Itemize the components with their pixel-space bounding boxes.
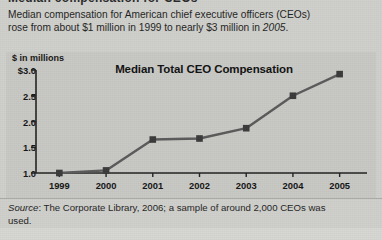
- x-tick-label-2000: 2000: [96, 180, 117, 191]
- intro-line-2-suffix: .: [286, 22, 289, 33]
- line-chart-plot: [6, 52, 376, 198]
- x-tick-label-2004: 2004: [282, 180, 303, 191]
- intro-line-1: Median compensation for American chief e…: [8, 9, 310, 20]
- source-text-line-2: used.: [8, 215, 31, 226]
- x-tick-label-2002: 2002: [189, 180, 210, 191]
- x-tick-label-2005: 2005: [329, 180, 350, 191]
- clipped-heading-text: Median compensation for CEOs: [8, 0, 198, 5]
- source-label: Source: [8, 202, 38, 213]
- intro-paragraph: Median compensation for American chief e…: [8, 8, 374, 34]
- chart-panel: $ in millions Median Total CEO Compensat…: [6, 52, 376, 198]
- intro-year-emphasis: 2005: [263, 22, 286, 33]
- page-bottom-band: [0, 228, 382, 240]
- x-tick-label-2003: 2003: [236, 180, 257, 191]
- x-tick-label-1999: 1999: [49, 180, 70, 191]
- x-tick-label-2001: 2001: [142, 180, 163, 191]
- source-text-line-1: : The Corporate Library, 2006; a sample …: [38, 202, 325, 213]
- intro-line-2-prefix: rose from about $1 million in 1999 to ne…: [8, 22, 263, 33]
- horizontal-divider: [0, 198, 382, 199]
- clipped-heading-strip: Median compensation for CEOs: [0, 0, 382, 7]
- source-footnote: Source: The Corporate Library, 2006; a s…: [8, 202, 374, 227]
